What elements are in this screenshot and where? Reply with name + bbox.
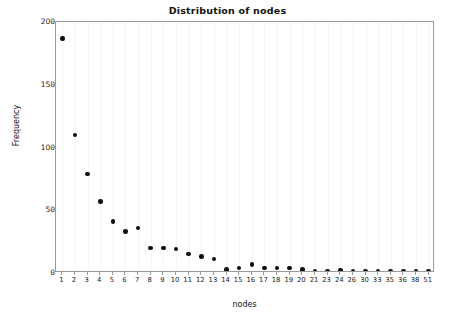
x-tick-label: 26	[348, 276, 357, 284]
x-tick-mark	[99, 272, 100, 275]
gridline-24	[340, 22, 341, 271]
x-tick-mark	[402, 272, 403, 275]
x-tick-mark	[327, 272, 328, 275]
x-tick-mark	[124, 272, 125, 275]
x-tick-mark	[61, 272, 62, 275]
x-tick-label: 3	[84, 276, 88, 284]
gridline-4	[100, 22, 101, 271]
data-point	[275, 266, 280, 271]
x-tick-mark	[213, 272, 214, 275]
x-tick-mark	[339, 272, 340, 275]
x-tick-mark	[301, 272, 302, 275]
x-tick-mark	[137, 272, 138, 275]
gridline-12	[201, 22, 202, 271]
gridline-15	[239, 22, 240, 271]
data-point	[199, 254, 204, 259]
chart-figure: Distribution of nodes Frequency 05010015…	[0, 0, 455, 326]
x-tick-label: 30	[360, 276, 369, 284]
data-point	[250, 262, 255, 267]
gridline-7	[138, 22, 139, 271]
data-point	[174, 247, 179, 252]
x-tick-label: 16	[246, 276, 255, 284]
data-point	[123, 229, 128, 234]
data-point	[98, 199, 103, 204]
data-point	[85, 172, 90, 177]
x-tick-label: 8	[148, 276, 152, 284]
data-point	[60, 36, 65, 41]
x-tick-label: 15	[234, 276, 243, 284]
x-tick-mark	[415, 272, 416, 275]
data-point	[148, 246, 153, 251]
x-tick-label: 7	[135, 276, 139, 284]
gridline-19	[290, 22, 291, 271]
data-point	[73, 133, 78, 138]
x-tick-label: 9	[160, 276, 164, 284]
x-tick-mark	[377, 272, 378, 275]
x-tick-label: 20	[297, 276, 306, 284]
x-tick-mark	[74, 272, 75, 275]
gridline-38	[416, 22, 417, 271]
x-tick-label: 2	[72, 276, 76, 284]
x-tick-mark	[150, 272, 151, 275]
x-tick-label: 36	[398, 276, 407, 284]
gridline-1	[62, 22, 63, 271]
plot-area	[55, 21, 434, 272]
gridline-23	[328, 22, 329, 271]
x-tick-label: 10	[171, 276, 180, 284]
x-tick-label: 12	[196, 276, 205, 284]
x-tick-mark	[289, 272, 290, 275]
x-tick-mark	[87, 272, 88, 275]
x-tick-mark	[365, 272, 366, 275]
gridline-8	[151, 22, 152, 271]
x-tick-label: 33	[373, 276, 382, 284]
gridline-51	[429, 22, 430, 271]
x-tick-label: 5	[110, 276, 114, 284]
x-tick-mark	[276, 272, 277, 275]
x-tick-label: 17	[259, 276, 268, 284]
data-point	[224, 267, 229, 272]
data-point	[111, 219, 116, 224]
x-tick-mark	[112, 272, 113, 275]
x-tick-label: 18	[272, 276, 281, 284]
data-point	[300, 267, 305, 272]
gridline-17	[264, 22, 265, 271]
x-tick-label: 13	[209, 276, 218, 284]
x-tick-label: 38	[411, 276, 420, 284]
x-tick-label: 51	[423, 276, 432, 284]
gridline-5	[113, 22, 114, 271]
x-tick-mark	[175, 272, 176, 275]
x-tick-label: 1	[59, 276, 63, 284]
x-tick-label: 24	[335, 276, 344, 284]
x-tick-mark	[251, 272, 252, 275]
x-tick-label: 35	[385, 276, 394, 284]
x-tick-label: 21	[310, 276, 319, 284]
x-tick-mark	[238, 272, 239, 275]
gridline-10	[176, 22, 177, 271]
x-tick-label: 6	[122, 276, 126, 284]
x-axis-label: nodes	[55, 300, 434, 309]
y-tick-mark	[52, 272, 55, 273]
y-axis-label: Frequency	[12, 86, 21, 166]
gridline-14	[227, 22, 228, 271]
x-tick-mark	[390, 272, 391, 275]
gridline-2	[75, 22, 76, 271]
x-tick-label: 14	[221, 276, 230, 284]
gridline-9	[163, 22, 164, 271]
gridline-30	[366, 22, 367, 271]
x-tick-mark	[226, 272, 227, 275]
gridline-26	[353, 22, 354, 271]
data-point	[186, 252, 191, 257]
gridline-18	[277, 22, 278, 271]
gridline-13	[214, 22, 215, 271]
gridline-35	[391, 22, 392, 271]
gridline-16	[252, 22, 253, 271]
data-point	[161, 246, 166, 251]
x-tick-label: 23	[322, 276, 331, 284]
x-tick-label: 4	[97, 276, 101, 284]
data-point	[136, 226, 141, 231]
x-tick-mark	[263, 272, 264, 275]
data-point	[237, 266, 242, 271]
x-tick-mark	[314, 272, 315, 275]
gridline-3	[88, 22, 89, 271]
data-point	[212, 257, 217, 262]
